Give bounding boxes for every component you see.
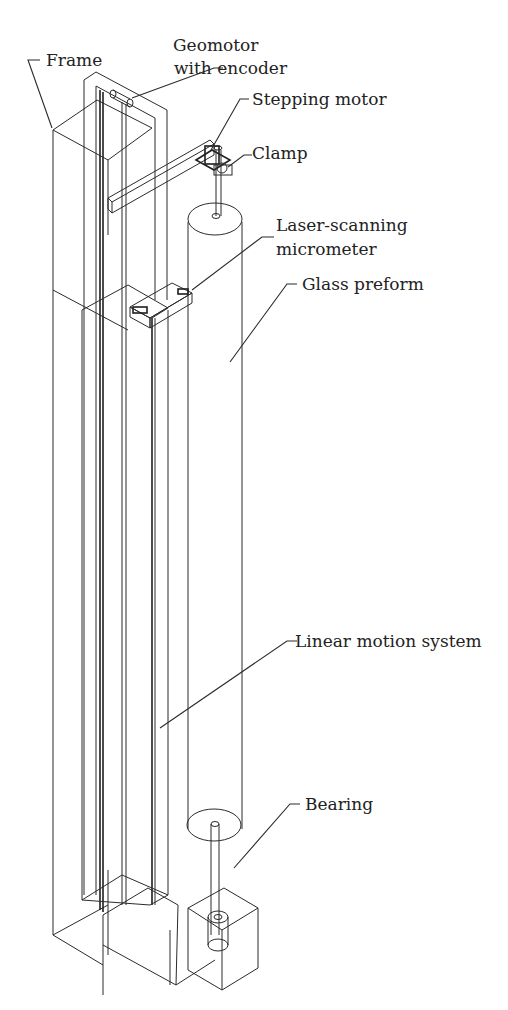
label-micrometer: micrometer: [276, 239, 377, 259]
linear-motion-column: [82, 72, 168, 955]
label-stepping-motor: Stepping motor: [252, 89, 387, 109]
label-bearing: Bearing: [305, 794, 373, 814]
label-laser-scanning: Laser-scanning: [276, 215, 408, 235]
label-geomotor-1: Geomotor: [173, 35, 258, 55]
label-glass-preform: Glass preform: [302, 274, 424, 294]
arm: [108, 140, 214, 213]
label-geomotor-2: with encoder: [174, 58, 287, 78]
label-linear-motion: Linear motion system: [295, 631, 482, 651]
glass-preform: [187, 203, 242, 935]
leader-lines: [28, 60, 300, 868]
label-clamp: Clamp: [252, 143, 308, 163]
label-frame: Frame: [46, 50, 102, 70]
